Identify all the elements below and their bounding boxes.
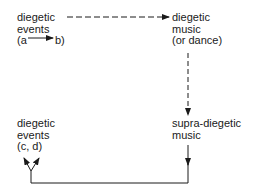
node-supra-diegetic-music: supra-diegetic music bbox=[172, 118, 241, 141]
node-label-line2: music bbox=[172, 130, 241, 142]
node-label-line1: diegetic bbox=[17, 12, 55, 24]
node-label-line1: supra-diegetic bbox=[172, 118, 241, 130]
node-label-line3: (a b) bbox=[17, 35, 55, 47]
node-diegetic-events-cd: diegetic events (c, d) bbox=[17, 118, 55, 153]
node-diegetic-music: diegetic music (or dance) bbox=[172, 12, 222, 47]
fork-arrow-left bbox=[24, 158, 31, 171]
node-label-line1: diegetic bbox=[172, 12, 222, 24]
node-diegetic-events-ab: diegetic events (a b) bbox=[17, 12, 55, 47]
node-label-line3: (or dance) bbox=[172, 35, 222, 47]
node-label-line1: diegetic bbox=[17, 118, 55, 130]
diagram-canvas: diegetic events (a b) diegetic music (or… bbox=[0, 0, 267, 194]
node-label-line3: (c, d) bbox=[17, 141, 55, 153]
label-b: b) bbox=[55, 35, 65, 47]
label-a: (a bbox=[17, 35, 27, 47]
fork-arrow-right bbox=[31, 158, 39, 171]
